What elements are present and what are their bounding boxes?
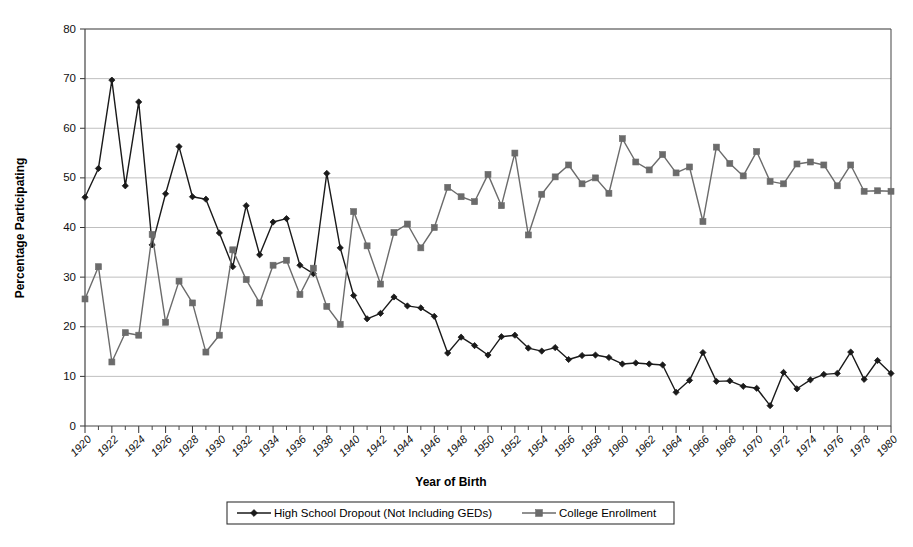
y-tick-label: 20 [63,320,76,332]
data-point-marker [418,245,424,251]
data-point-marker [875,188,881,194]
data-point-marker [485,171,491,177]
data-point-marker [458,194,464,200]
data-point-marker [700,219,706,225]
legend-marker-square [536,510,543,517]
y-tick-label: 50 [63,171,76,183]
data-point-marker [687,164,693,170]
data-point-marker [498,203,504,209]
data-point-marker [149,231,155,237]
y-tick-label: 80 [63,23,76,35]
data-point-marker [364,243,370,249]
data-point-marker [284,257,290,263]
data-point-marker [189,300,195,306]
data-point-marker [136,332,142,338]
data-point-marker [592,175,598,181]
data-point-marker [834,183,840,189]
y-tick-label: 40 [63,221,76,233]
data-point-marker [848,162,854,168]
data-point-marker [109,359,115,365]
data-point-marker [378,281,384,287]
data-point-marker [767,178,773,184]
data-point-marker [404,221,410,227]
data-point-marker [216,332,222,338]
y-tick-label: 0 [70,420,76,432]
legend-item-label: High School Dropout (Not Including GEDs) [274,507,492,519]
data-point-marker [310,265,316,271]
legend-item-label: College Enrollment [559,507,657,519]
data-point-marker [243,277,249,283]
data-point-marker [82,296,88,302]
data-point-marker [606,190,612,196]
data-point-marker [431,225,437,231]
data-point-marker [230,247,236,253]
chart-legend: High School Dropout (Not Including GEDs)… [227,502,674,524]
data-point-marker [122,330,128,336]
data-point-marker [512,150,518,156]
data-point-marker [861,188,867,194]
data-point-marker [337,321,343,327]
data-point-marker [163,319,169,325]
data-point-marker [539,191,545,197]
data-point-marker [727,160,733,166]
chart-background [0,0,913,547]
data-point-marker [740,173,746,179]
y-tick-label: 30 [63,271,76,283]
data-point-marker [552,174,558,180]
data-point-marker [525,232,531,238]
data-point-marker [391,229,397,235]
y-tick-label: 60 [63,122,76,134]
data-point-marker [176,278,182,284]
y-tick-label: 10 [63,370,76,382]
data-point-marker [660,152,666,158]
data-point-marker [297,291,303,297]
data-point-marker [754,149,760,155]
data-point-marker [257,300,263,306]
data-point-marker [472,199,478,205]
x-axis-title: Year of Birth [415,475,486,489]
data-point-marker [445,184,451,190]
chart-container: 01020304050607080 1920192219241926192819… [0,0,913,547]
data-point-marker [781,181,787,187]
data-point-marker [619,136,625,142]
legend-item-dropout[interactable]: High School Dropout (Not Including GEDs) [237,507,492,519]
data-point-marker [566,162,572,168]
data-point-marker [713,144,719,150]
data-point-marker [794,161,800,167]
data-point-marker [821,162,827,168]
data-point-marker [579,181,585,187]
data-point-marker [203,349,209,355]
data-point-marker [646,167,652,173]
data-point-marker [270,262,276,268]
data-point-marker [351,209,357,215]
data-point-marker [807,159,813,165]
data-point-marker [633,159,639,165]
line-chart: 01020304050607080 1920192219241926192819… [0,0,913,547]
y-tick-label: 70 [63,72,76,84]
data-point-marker [324,303,330,309]
y-axis-title: Percentage Participating [13,158,27,299]
data-point-marker [888,188,894,194]
data-point-marker [673,170,679,176]
data-point-marker [95,264,101,270]
